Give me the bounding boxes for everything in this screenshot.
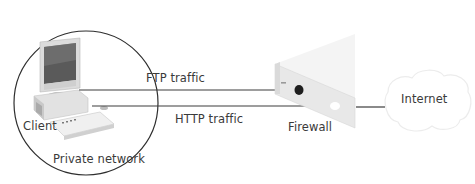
firewall-indicator-icon — [281, 82, 286, 84]
http-traffic-label: HTTP traffic — [175, 112, 243, 126]
client-label: Client — [23, 119, 57, 133]
blocked-port-icon — [295, 85, 304, 95]
firewall-icon — [275, 34, 355, 128]
open-port-icon — [330, 102, 340, 110]
ftp-traffic-label: FTP traffic — [146, 71, 205, 85]
private-network-label: Private network — [53, 152, 145, 166]
firewall-label: Firewall — [288, 120, 332, 134]
internet-label: Internet — [401, 92, 447, 106]
